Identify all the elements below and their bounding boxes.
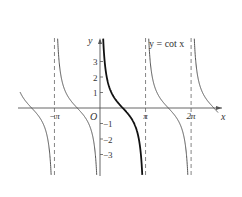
cot-branch xyxy=(58,39,97,175)
x-tick-label: −π xyxy=(49,111,60,121)
cot-branch xyxy=(20,92,51,175)
y-tick-label: 3 xyxy=(93,57,98,67)
x-axis-label: x xyxy=(220,111,226,122)
cot-graph: 321−1−2−3−ππ2π x y O y = cot x xyxy=(0,0,242,197)
y-tick-label: −1 xyxy=(103,119,113,129)
x-axis-arrow-icon xyxy=(216,106,222,110)
y-tick-label: 2 xyxy=(93,73,98,83)
cot-branch xyxy=(194,39,218,113)
y-tick-label: −3 xyxy=(103,150,113,160)
cot-branch xyxy=(149,39,188,175)
y-axis-label: y xyxy=(87,35,93,46)
axes xyxy=(18,38,222,176)
y-tick-label: 1 xyxy=(93,88,98,98)
curve-label: y = cot x xyxy=(149,38,184,49)
origin-label: O xyxy=(90,111,97,122)
cot-curves xyxy=(20,39,218,175)
x-tick-label: 2π xyxy=(187,111,197,121)
y-axis-arrow-icon xyxy=(98,38,102,44)
y-tick-label: −2 xyxy=(103,135,113,145)
x-tick-label: π xyxy=(143,111,148,121)
